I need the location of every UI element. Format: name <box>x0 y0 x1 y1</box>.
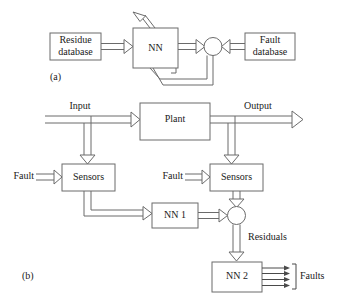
connector-fault-right-to-sensors <box>185 170 210 184</box>
box-sensors-right: Sensors <box>210 164 263 191</box>
connector-junction-to-nn2-residuals <box>229 225 244 262</box>
connector-nn-to-junction <box>178 40 205 54</box>
box-residue-database: Residue database <box>50 33 101 60</box>
connector-faultdb-to-junction <box>222 40 246 54</box>
summing-junction-b <box>228 207 246 225</box>
panel-a-label: (a) <box>50 71 61 83</box>
box-plant: Plant <box>140 103 210 140</box>
block-diagram-svg: Residue database NN <box>0 0 338 304</box>
panel-b-label: (b) <box>22 270 34 282</box>
label-fault-left: Fault <box>13 170 34 181</box>
label-faults: Faults <box>300 270 325 281</box>
label-residuals: Residuals <box>248 231 287 242</box>
arrow-nn-training-output <box>133 12 155 28</box>
box-nn-1: NN 1 <box>152 203 198 228</box>
connector-input-to-plant <box>45 112 140 127</box>
box-nn-label: NN <box>148 42 162 53</box>
connector-nn2-faults-outputs <box>262 264 296 289</box>
label-fault-right: Fault <box>162 170 183 181</box>
figure-canvas: Residue database NN <box>0 0 338 304</box>
connector-residue-to-nn <box>101 40 133 54</box>
box-nn: NN <box>133 28 178 68</box>
box-residue-database-line-2: database <box>58 46 93 57</box>
box-sensors-right-label: Sensors <box>221 171 252 182</box>
box-nn-2: NN 2 <box>212 262 262 292</box>
connector-nn1-to-junction <box>198 209 228 222</box>
box-sensors-left-label: Sensors <box>73 171 104 182</box>
label-input: Input <box>69 100 90 111</box>
box-nn-2-label: NN 2 <box>226 270 248 281</box>
box-sensors-left: Sensors <box>62 164 115 191</box>
box-fault-database: Fault database <box>245 33 295 60</box>
connector-sensors-right-to-junction <box>229 191 244 208</box>
box-fault-database-line-1: Fault <box>260 34 281 45</box>
label-output: Output <box>244 100 272 111</box>
connector-sensors-left-to-nn1 <box>84 191 152 220</box>
box-residue-database-line-1: Residue <box>59 34 92 45</box>
box-fault-database-line-2: database <box>253 46 288 57</box>
summing-junction-a <box>204 38 222 56</box>
connector-plant-to-output <box>210 111 303 128</box>
box-plant-label: Plant <box>165 113 186 124</box>
box-nn-1-label: NN 1 <box>164 209 186 220</box>
connector-fault-left-to-sensors <box>36 170 62 184</box>
